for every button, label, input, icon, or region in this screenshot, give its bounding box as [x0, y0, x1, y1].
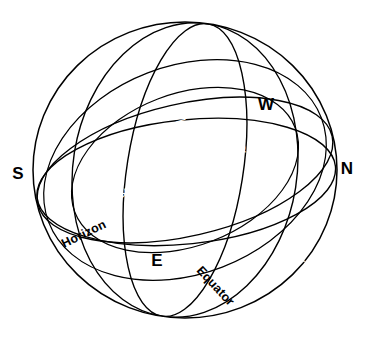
ecliptic-outer-edge [11, 21, 358, 320]
sphere-drawing: S N E W Horizon Equator ♈ ♉ ♊ ♋ ♌ ♍ ♎ ♏ … [0, 0, 370, 338]
cardinal-label-north: N [341, 159, 353, 178]
sphere-outline [33, 22, 337, 318]
zodiac-glyph-aries: ♈ [167, 219, 182, 237]
ecliptic-band-group [6, 6, 365, 335]
equator-label: Equator [194, 263, 237, 308]
celestial-sphere-diagram: S N E W Horizon Equator ♈ ♉ ♊ ♋ ♌ ♍ ♎ ♏ … [0, 0, 370, 338]
cardinal-label-east: E [151, 251, 162, 270]
cardinal-label-south: S [12, 164, 23, 183]
zodiac-glyph-pisces: ♓ [118, 185, 134, 204]
zodiac-glyph-libra: ♎ [172, 108, 188, 127]
zodiac-glyph-gemini: ♊ [293, 249, 306, 266]
cardinal-label-west: W [258, 95, 275, 114]
zodiac-glyph-scorpio: ♏ [126, 90, 140, 107]
zodiac-glyph-taurus: ♉ [231, 237, 245, 255]
zodiac-glyph-sagittarius: ♐ [74, 80, 89, 98]
zodiac-glyph-cancer: ♋ [306, 207, 324, 227]
zodiac-glyph-capricorn: ♑ [48, 113, 66, 133]
